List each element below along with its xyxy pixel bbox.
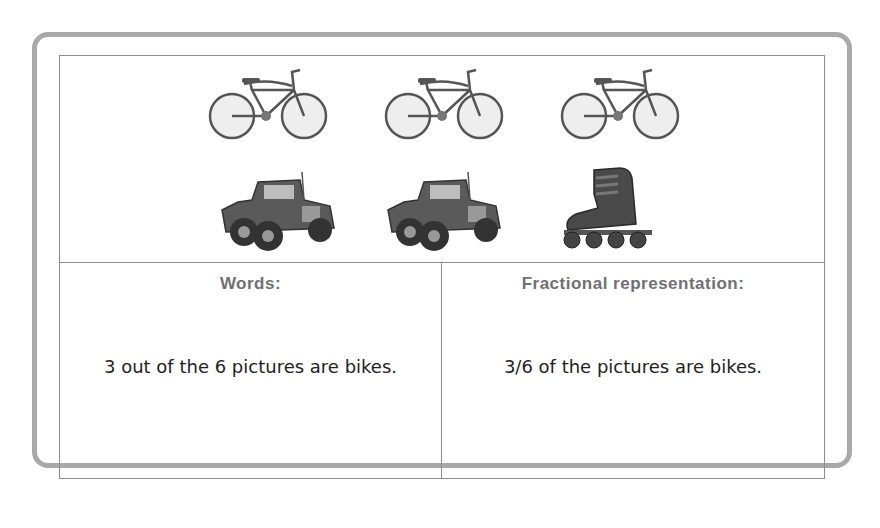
- inline-skate-icon: [558, 164, 658, 254]
- fraction-cell: Fractional representation: 3/6 of the pi…: [442, 262, 824, 478]
- fraction-table: Words: 3 out of the 6 pictures are bikes…: [59, 55, 825, 479]
- fraction-text: 3/6 of the pictures are bikes.: [442, 356, 824, 377]
- jeep-icon: [384, 172, 504, 254]
- bicycle-icon: [208, 64, 328, 142]
- bicycle-icon: [384, 64, 504, 142]
- fraction-title: Fractional representation:: [442, 274, 824, 294]
- words-cell: Words: 3 out of the 6 pictures are bikes…: [60, 262, 442, 478]
- representation-row: Words: 3 out of the 6 pictures are bikes…: [60, 262, 824, 478]
- bicycle-icon: [560, 64, 680, 142]
- words-title: Words:: [60, 274, 441, 294]
- pictures-panel: [60, 56, 824, 263]
- jeep-icon: [218, 172, 338, 254]
- words-text: 3 out of the 6 pictures are bikes.: [60, 356, 441, 377]
